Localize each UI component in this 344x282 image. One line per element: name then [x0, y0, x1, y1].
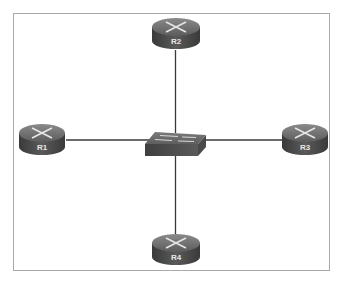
- router-r3[interactable]: R3: [282, 124, 328, 155]
- router-label: R4: [171, 253, 182, 262]
- switch-icon: [145, 132, 206, 156]
- router-label: R1: [37, 143, 48, 152]
- network-diagram: R2 R1 R3 R4: [0, 0, 344, 282]
- router-label: R2: [171, 37, 182, 46]
- router-r1[interactable]: R1: [19, 124, 65, 155]
- router-r4[interactable]: R4: [152, 234, 200, 265]
- router-label: R3: [300, 143, 311, 152]
- switch[interactable]: [145, 132, 206, 156]
- router-r2[interactable]: R2: [152, 18, 200, 49]
